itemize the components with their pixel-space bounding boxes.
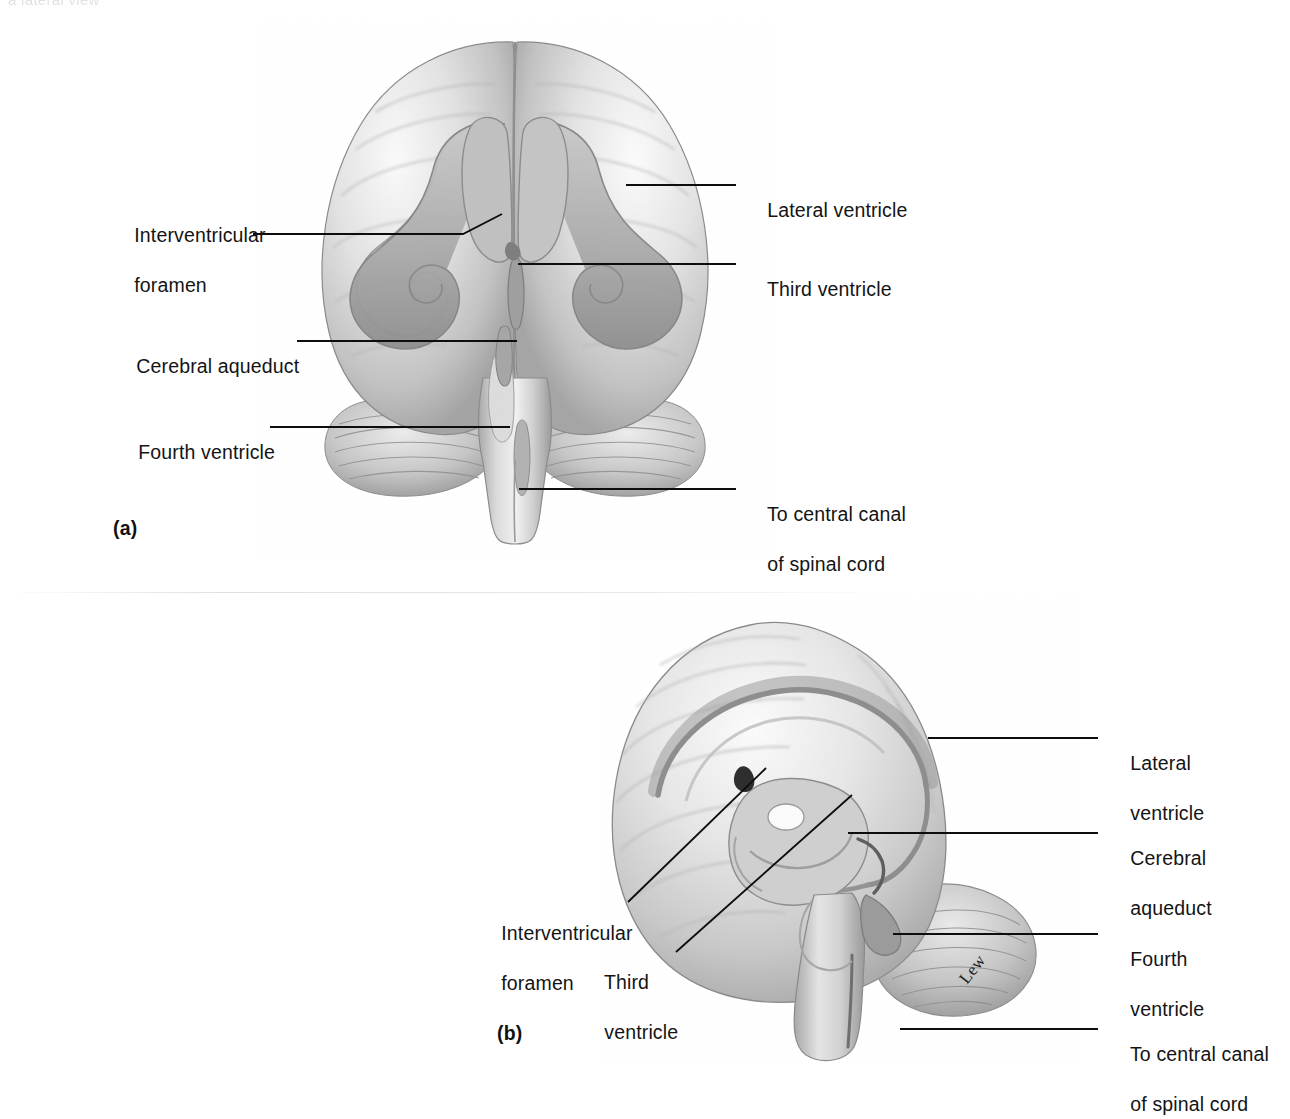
cropped-header-text: a lateral view: [8, 0, 100, 8]
label-line-2: aqueduct: [1130, 897, 1211, 919]
label-line-1: To central canal: [1130, 1043, 1269, 1065]
label-to-central-canal-b: To central canal of spinal cord: [1108, 1017, 1269, 1119]
label-line-2: ventricle: [604, 1021, 678, 1043]
label-line-1: Interventricular: [134, 224, 265, 246]
panel-a-illustration: [255, 20, 775, 560]
label-third-ventricle-a: Third ventricle: [745, 252, 892, 327]
label-line-1: Lateral ventricle: [767, 199, 907, 221]
label-line-2: foramen: [501, 972, 574, 994]
label-line-2: of spinal cord: [1130, 1093, 1248, 1115]
label-third-ventricle-b: Third ventricle: [582, 945, 678, 1070]
panel-a-brain-svg: [255, 20, 775, 560]
label-line-1: To central canal: [767, 503, 906, 525]
label-line-1: Third ventricle: [767, 278, 892, 300]
label-line-1: Cerebral: [1130, 847, 1206, 869]
label-fourth-ventricle-a: Fourth ventricle: [116, 415, 275, 490]
label-line-1: Fourth ventricle: [138, 441, 275, 463]
label-cerebral-aqueduct-a: Cerebral aqueduct: [114, 329, 299, 404]
label-line-1: Lateral: [1130, 752, 1191, 774]
label-line-1: Interventricular: [501, 922, 632, 944]
label-line-1: Fourth: [1130, 948, 1187, 970]
label-lateral-ventricle-a: Lateral ventricle: [745, 173, 907, 248]
label-line-2: foramen: [134, 274, 207, 296]
label-interventricular-foramen-a: Interventricular foramen: [112, 198, 266, 323]
label-line-1: Third: [604, 971, 649, 993]
label-line-2: of spinal cord: [767, 553, 885, 575]
label-line-1: Cerebral aqueduct: [136, 355, 299, 377]
panel-letter-a: (a): [113, 517, 137, 540]
panel-letter-b: (b): [497, 1022, 523, 1045]
label-to-central-canal-a: To central canal of spinal cord: [745, 477, 906, 602]
